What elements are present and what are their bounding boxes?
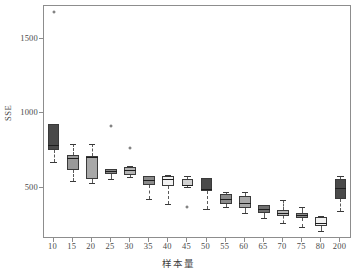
x-tick-label: 55 (220, 241, 229, 251)
y-tick-label: 500 (25, 182, 38, 192)
x-tick-mark (129, 238, 130, 242)
x-tick-mark (148, 238, 149, 242)
x-tick-mark (263, 238, 264, 242)
y-tick-label: 1000 (20, 107, 38, 117)
x-tick-label: 35 (144, 241, 153, 251)
x-tick-label: 10 (48, 241, 57, 251)
x-tick-mark (53, 238, 54, 242)
x-tick-label: 200 (333, 241, 346, 251)
x-tick-label: 25 (105, 241, 114, 251)
x-axis-title: 样本量 (0, 256, 356, 270)
x-tick-label: 20 (86, 241, 95, 251)
x-tick-mark (339, 238, 340, 242)
x-tick-mark (167, 238, 168, 242)
x-tick-mark (91, 238, 92, 242)
x-tick-label: 40 (163, 241, 172, 251)
y-axis-title: SSE (3, 89, 13, 137)
median-line (335, 188, 347, 189)
x-tick-mark (186, 238, 187, 242)
x-tick-mark (301, 238, 302, 242)
x-tick-label: 60 (239, 241, 248, 251)
x-tick-mark (206, 238, 207, 242)
y-tick-label: 1500 (20, 33, 38, 43)
boxplot-chart: SSE 50010001500 101520253035404550556065… (0, 0, 356, 278)
whisker-cap-lower (337, 211, 343, 212)
x-tick-mark (244, 238, 245, 242)
box-group (44, 6, 350, 237)
whisker-lower (340, 199, 342, 210)
x-tick-mark (225, 238, 226, 242)
x-tick-label: 50 (201, 241, 210, 251)
x-tick-mark (72, 238, 73, 242)
box-rect (335, 179, 347, 200)
x-tick-label: 45 (182, 241, 191, 251)
x-tick-label: 70 (278, 241, 287, 251)
x-tick-mark (110, 238, 111, 242)
plot-area (43, 5, 351, 238)
x-tick-label: 75 (297, 241, 306, 251)
x-tick-mark (282, 238, 283, 242)
whisker-cap-upper (337, 176, 343, 177)
x-tick-label: 80 (316, 241, 325, 251)
x-tick-label: 30 (125, 241, 134, 251)
x-tick-label: 65 (258, 241, 267, 251)
x-tick-label: 15 (67, 241, 76, 251)
x-tick-mark (320, 238, 321, 242)
